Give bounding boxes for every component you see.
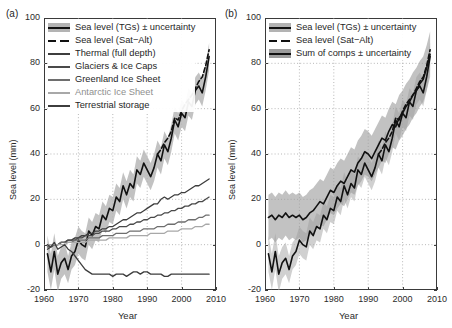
legend-swatch-icon: [48, 61, 70, 72]
panel-a-legend-item[interactable]: Sea level (TGs) ± uncertainty: [48, 21, 195, 34]
legend-item-label: Sea level (TGs) ± uncertainty: [296, 22, 416, 33]
legend-swatch-icon: [48, 100, 70, 111]
legend-item-label: Glaciers & Ice Caps: [75, 61, 157, 72]
panel-b-legend-item[interactable]: Sea level (Sat−Alt): [269, 34, 416, 47]
legend-item-label: Thermal (full depth): [75, 48, 156, 59]
legend-swatch-icon: [48, 74, 70, 85]
legend-swatch-icon: [48, 22, 70, 33]
panel-a-legend-item[interactable]: Sea level (Sat−Alt): [48, 34, 195, 47]
panel-b: (b) Sea level (mm) Year -200204060801001…: [219, 0, 439, 328]
legend-swatch-icon: [269, 35, 291, 46]
legend-item-label: Sea level (Sat−Alt): [296, 35, 373, 46]
legend-item-label: Sea level (TGs) ± uncertainty: [75, 22, 195, 33]
legend-swatch-icon: [269, 48, 291, 59]
legend-swatch-icon: [48, 48, 70, 59]
panel-a-legend: Sea level (TGs) ± uncertaintySea level (…: [48, 21, 195, 112]
legend-item-label: Sum of comps ± uncertainty: [296, 48, 411, 59]
panel-b-legend: Sea level (TGs) ± uncertaintySea level (…: [269, 21, 416, 60]
panel-a-legend-item[interactable]: Greenland Ice Sheet: [48, 73, 195, 86]
panel-a-legend-item[interactable]: Terrestrial storage: [48, 99, 195, 112]
panel-a: (a) Sea level (mm) Year -200204060801001…: [0, 0, 220, 328]
panel-b-legend-item[interactable]: Sum of comps ± uncertainty: [269, 47, 416, 60]
legend-swatch-icon: [269, 22, 291, 33]
panel-a-legend-item[interactable]: Thermal (full depth): [48, 47, 195, 60]
legend-swatch-icon: [48, 35, 70, 46]
panel-a-legend-item[interactable]: Glaciers & Ice Caps: [48, 60, 195, 73]
panel-a-legend-item[interactable]: Antarctic Ice Sheet: [48, 86, 195, 99]
legend-item-label: Sea level (Sat−Alt): [75, 35, 152, 46]
legend-item-label: Antarctic Ice Sheet: [75, 87, 153, 98]
panel-b-legend-item[interactable]: Sea level (TGs) ± uncertainty: [269, 21, 416, 34]
legend-swatch-icon: [48, 87, 70, 98]
legend-item-label: Greenland Ice Sheet: [75, 74, 160, 85]
legend-item-label: Terrestrial storage: [75, 100, 149, 111]
